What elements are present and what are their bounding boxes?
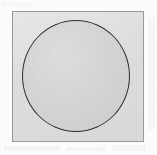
scan-artifact-right-edge	[148, 18, 155, 130]
circle-shading	[23, 21, 129, 131]
scan-artifact-bottom-right	[112, 145, 146, 151]
scan-artifact-top-left	[2, 2, 32, 7]
figure-title	[0, 0, 1, 1]
scan-artifact-bottom-left	[4, 146, 60, 151]
inscribed-circle-shape	[22, 20, 130, 132]
square-frame-shape	[12, 11, 144, 142]
figure-caption	[0, 0, 1, 1]
figure-canvas	[0, 0, 157, 155]
scan-artifact-bottom-middle	[66, 147, 106, 151]
